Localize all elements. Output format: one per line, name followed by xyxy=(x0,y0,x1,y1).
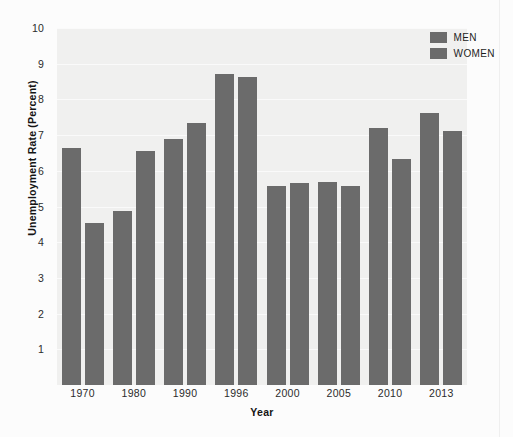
y-axis-tick-label: 7 xyxy=(38,129,44,141)
x-axis-tick-label-2013: 2013 xyxy=(429,387,454,399)
bar-group-2010 xyxy=(369,28,411,385)
bar-men-1996 xyxy=(215,74,234,385)
x-axis-tick-label-1990: 1990 xyxy=(173,387,198,399)
legend-swatch-icon xyxy=(430,48,447,59)
y-axis-title: Unemployment Rate (Percent) xyxy=(26,63,38,253)
x-axis-tick-label-1996: 1996 xyxy=(224,387,249,399)
bar-group-1970 xyxy=(62,28,104,385)
bar-men-2005 xyxy=(318,182,337,385)
bar-men-2010 xyxy=(369,128,388,385)
bar-women-1970 xyxy=(85,223,104,385)
bar-men-1990 xyxy=(164,139,183,385)
bar-group-1980 xyxy=(113,28,155,385)
bar-women-2000 xyxy=(290,183,309,385)
y-axis-tick-label: 2 xyxy=(38,308,44,320)
bar-men-2000 xyxy=(267,186,286,385)
bar-women-1996 xyxy=(238,77,257,385)
bar-women-2013 xyxy=(443,131,462,385)
y-axis-tick-label: 1 xyxy=(38,343,44,355)
bar-women-1990 xyxy=(187,123,206,385)
bar-men-2013 xyxy=(420,113,439,385)
bar-women-2005 xyxy=(341,186,360,385)
bar-group-2005 xyxy=(318,28,360,385)
chart-legend: MENWOMEN xyxy=(430,32,495,59)
y-axis-tick-label: 9 xyxy=(38,58,44,70)
bar-group-1990 xyxy=(164,28,206,385)
bars-layer xyxy=(57,28,467,385)
bar-women-1980 xyxy=(136,151,155,385)
bar-men-1970 xyxy=(62,148,81,385)
margin-note-text xyxy=(501,296,513,400)
bar-group-1996 xyxy=(215,28,257,385)
y-axis-tick-label: 4 xyxy=(38,236,44,248)
x-axis-tick-labels: 19701980199019962000200520102013 xyxy=(57,387,467,405)
legend-swatch-icon xyxy=(430,32,447,43)
bar-group-2000 xyxy=(267,28,309,385)
x-axis-tick-label-2000: 2000 xyxy=(275,387,300,399)
y-axis-tick-label: 5 xyxy=(38,201,44,213)
x-axis-tick-label-2005: 2005 xyxy=(327,387,352,399)
legend-item-women: WOMEN xyxy=(430,48,495,59)
y-axis-tick-label: 10 xyxy=(32,22,44,34)
bar-women-2010 xyxy=(392,159,411,385)
legend-item-men: MEN xyxy=(430,32,495,43)
x-axis-tick-label-2010: 2010 xyxy=(378,387,403,399)
y-axis-tick-label: 6 xyxy=(38,165,44,177)
bar-men-1980 xyxy=(113,211,132,385)
x-axis-title: Year xyxy=(57,406,467,418)
legend-label: WOMEN xyxy=(454,48,495,59)
y-axis-tick-label: 3 xyxy=(38,272,44,284)
bar-group-2013 xyxy=(420,28,462,385)
legend-label: MEN xyxy=(454,32,477,43)
y-axis-tick-label: 8 xyxy=(38,93,44,105)
page-margin-rule xyxy=(499,0,500,437)
x-axis-tick-label-1980: 1980 xyxy=(122,387,147,399)
x-axis-tick-label-1970: 1970 xyxy=(70,387,95,399)
bar-chart-figure: 10987654321 Unemployment Rate (Percent) … xyxy=(0,0,513,437)
